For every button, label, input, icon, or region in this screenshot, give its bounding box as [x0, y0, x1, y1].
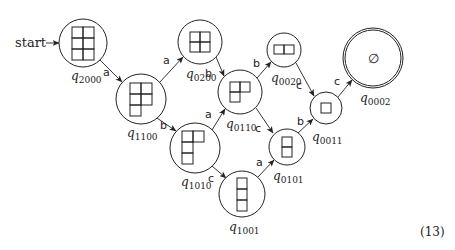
state-label: q0101: [273, 169, 304, 185]
state-q2000: q2000: [59, 19, 107, 85]
start-label: start: [15, 35, 47, 50]
edge-label: b: [253, 57, 260, 70]
state-label: q0020: [271, 71, 302, 87]
edge-q0101-q0011: b: [297, 115, 313, 133]
nodes: q2000 q1100 q0200: [59, 19, 403, 236]
state-q0002: ∅ q0002: [343, 28, 403, 107]
state-label: q1001: [229, 220, 260, 236]
start-marker: start: [15, 35, 59, 50]
state-q0011: q0011: [310, 92, 343, 146]
edge-label: c: [334, 75, 340, 88]
edge-q1100-q1010: b: [157, 118, 176, 132]
state-label: q0110: [226, 117, 257, 133]
edge-label: a: [163, 54, 170, 67]
edge-label: b: [297, 115, 304, 128]
state-label: q0011: [312, 130, 343, 146]
edge-label: a: [256, 156, 263, 169]
edge-label: a: [103, 66, 110, 79]
edge-q0110-q0101: c: [255, 108, 273, 135]
state-q0200: q0200: [178, 20, 222, 83]
edge-q1001-q0101: a: [256, 156, 274, 177]
state-label: q1100: [127, 126, 158, 142]
edge-label: a: [205, 108, 212, 121]
edge-q0011-q0002: c: [334, 75, 352, 97]
state-label: q0200: [186, 67, 217, 83]
state-q0020: q0020: [267, 33, 302, 87]
edge-label: b: [160, 119, 167, 132]
edge-q0110-q0020: b: [253, 57, 271, 78]
state-q1100: q1100: [116, 74, 166, 142]
edge-q2000-q1100: a: [100, 60, 122, 82]
empty-set-icon: ∅: [368, 51, 379, 66]
state-diagram: start a a b b a c: [0, 0, 455, 250]
state-label: q2000: [71, 69, 102, 85]
state-label: q0002: [360, 91, 391, 107]
state-q0101: q0101: [269, 129, 305, 185]
edge-q1100-q0200: a: [160, 54, 183, 82]
equation-number: (13): [420, 225, 445, 239]
state-q0110: q0110: [218, 70, 262, 133]
state-q1001: q1001: [219, 171, 265, 236]
